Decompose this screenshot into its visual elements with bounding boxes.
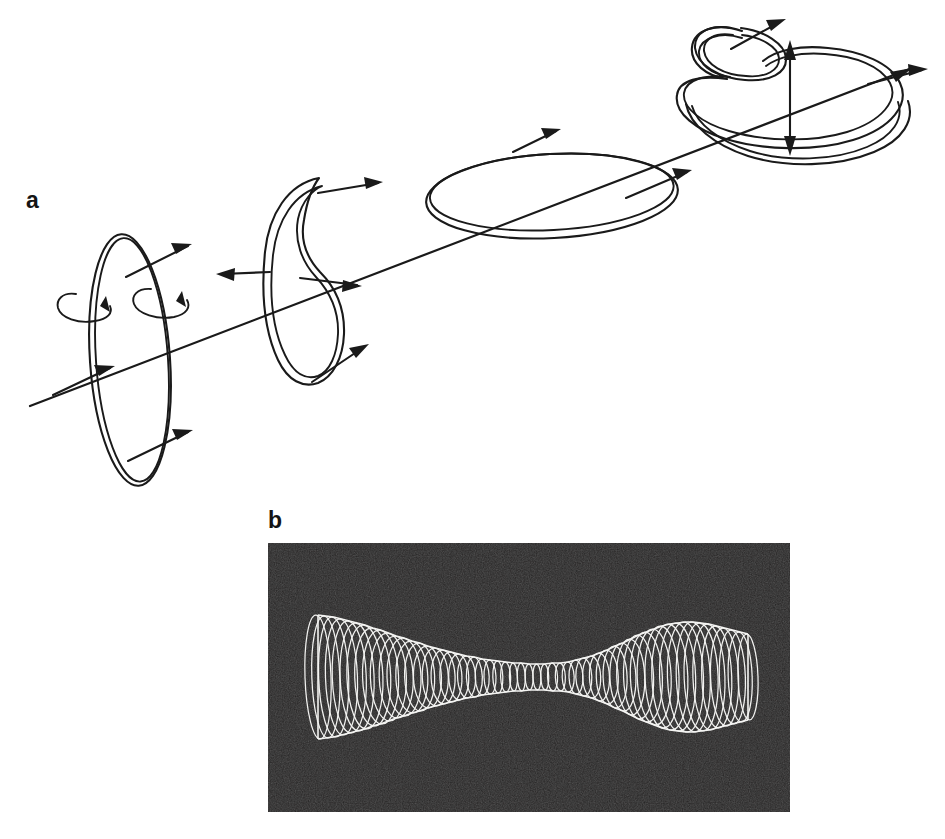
panel-label-a: a (26, 189, 39, 212)
panel-label-b: b (268, 509, 282, 532)
figure-root: a b (0, 0, 945, 839)
panel-b-photo (0, 0, 945, 839)
panel-b-frame (268, 543, 790, 812)
